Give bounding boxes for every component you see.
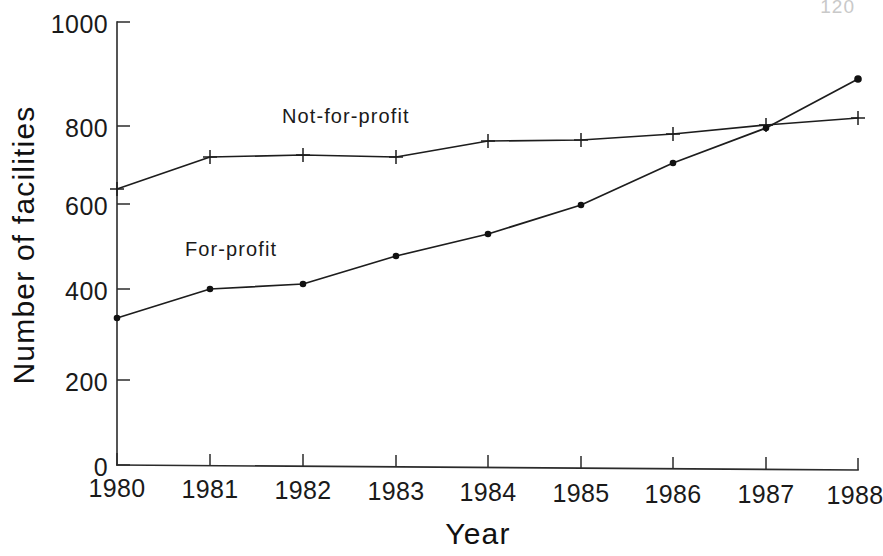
x-tick-label-1985: 1985: [552, 479, 609, 507]
x-tick-label-1984: 1984: [459, 478, 516, 506]
series-not-for-profit-line: [117, 118, 858, 189]
series-for-profit-markers: [114, 75, 862, 321]
series-not-for-profit: Not-for-profit: [110, 105, 865, 196]
series-annotation-for-profit: For-profit: [185, 238, 277, 260]
x-tick-label-1987: 1987: [737, 480, 794, 508]
x-tick-label-1980: 1980: [88, 474, 145, 502]
series-annotation-not-for-profit: Not-for-profit: [282, 105, 410, 127]
x-tick-label-1981: 1981: [181, 475, 238, 503]
x-tick-label-1988: 1988: [826, 481, 883, 509]
x-tick-label-1982: 1982: [274, 476, 331, 504]
chart-figure: 120 1000 800 600 400 200 0: [0, 0, 883, 556]
series-not-for-profit-markers: [110, 111, 865, 196]
x-axis-tick-labels: 1980 1981 1982 1983 1984 1985 1986 1987 …: [88, 474, 883, 509]
y-axis-ticks: [117, 22, 130, 465]
y-tick-label-800: 800: [65, 114, 108, 142]
y-tick-label-600: 600: [65, 192, 108, 220]
y-tick-label-200: 200: [65, 368, 108, 396]
y-tick-label-1000: 1000: [51, 10, 108, 38]
series-for-profit-line: [117, 79, 858, 318]
x-tick-label-1986: 1986: [644, 480, 701, 508]
y-tick-label-400: 400: [65, 277, 108, 305]
y-axis-title: Number of facilities: [7, 105, 40, 384]
line-chart: 1000 800 600 400 200 0 1980 1981 1982 19…: [0, 0, 883, 556]
x-tick-label-1983: 1983: [367, 477, 424, 505]
x-axis-title: Year: [445, 517, 510, 550]
series-for-profit: For-profit: [114, 75, 862, 321]
y-axis-tick-labels: 1000 800 600 400 200 0: [51, 10, 108, 481]
